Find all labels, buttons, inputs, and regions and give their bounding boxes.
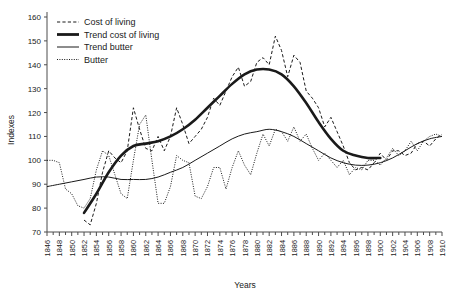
x-tick-label: 1882: [265, 240, 274, 256]
legend-item: Trend cost of living: [57, 30, 159, 40]
x-tick-label: 1896: [352, 240, 361, 256]
x-tick-label: 1890: [315, 240, 324, 256]
chart-legend: Cost of livingTrend cost of livingTrend …: [57, 17, 159, 64]
x-tick-label: 1846: [43, 240, 52, 256]
x-tick-label: 1874: [216, 240, 225, 256]
y-axis-ticks: 708090100110120130140150160: [28, 13, 47, 237]
x-tick-label: 1860: [129, 240, 138, 256]
y-tick-label: 130: [28, 85, 42, 94]
y-tick-label: 150: [28, 37, 42, 46]
x-tick-label: 1858: [117, 240, 126, 256]
x-tick-label: 1906: [413, 240, 422, 256]
y-tick-label: 90: [32, 180, 41, 189]
x-tick-label: 1880: [253, 240, 262, 256]
x-axis-ticks: 1846184818501852185418561858186018621864…: [43, 232, 447, 256]
x-tick-label: 1888: [302, 240, 311, 256]
x-tick-label: 1892: [327, 240, 336, 256]
x-axis-title: Years: [234, 280, 255, 290]
x-tick-label: 1902: [389, 240, 398, 256]
x-tick-label: 1864: [154, 240, 163, 256]
x-tick-label: 1850: [68, 240, 77, 256]
chart-container: 708090100110120130140150160 184618481850…: [0, 0, 450, 297]
legend-label: Butter: [84, 55, 108, 65]
x-tick-label: 1910: [438, 240, 447, 256]
x-tick-label: 1900: [376, 240, 385, 256]
y-tick-label: 80: [32, 204, 41, 213]
x-tick-label: 1876: [228, 240, 237, 256]
x-tick-label: 1870: [191, 240, 200, 256]
line-chart: 708090100110120130140150160 184618481850…: [0, 0, 450, 297]
legend-label: Trend cost of living: [84, 30, 159, 40]
legend-label: Cost of living: [84, 17, 136, 27]
x-tick-label: 1852: [80, 240, 89, 256]
y-tick-label: 70: [32, 228, 41, 237]
y-axis-title: Indexes: [6, 115, 16, 145]
y-tick-label: 100: [28, 156, 42, 165]
y-tick-label: 120: [28, 109, 42, 118]
y-tick-label: 160: [28, 13, 42, 22]
x-tick-label: 1866: [166, 240, 175, 256]
x-tick-label: 1878: [241, 240, 250, 256]
x-tick-label: 1872: [203, 240, 212, 256]
legend-item: Cost of living: [57, 17, 136, 27]
x-tick-label: 1862: [142, 240, 151, 256]
legend-label: Trend butter: [84, 42, 133, 52]
x-tick-label: 1894: [339, 240, 348, 256]
x-tick-label: 1848: [55, 240, 64, 256]
x-tick-label: 1898: [364, 240, 373, 256]
x-tick-label: 1886: [290, 240, 299, 256]
x-tick-label: 1904: [401, 240, 410, 256]
x-tick-label: 1854: [92, 240, 101, 256]
x-tick-label: 1868: [179, 240, 188, 256]
y-tick-label: 110: [28, 132, 41, 141]
legend-item: Trend butter: [57, 42, 133, 52]
x-tick-label: 1884: [278, 240, 287, 256]
legend-item: Butter: [57, 55, 108, 65]
x-tick-label: 1908: [426, 240, 435, 256]
x-tick-label: 1856: [105, 240, 114, 256]
y-tick-label: 140: [28, 61, 42, 70]
